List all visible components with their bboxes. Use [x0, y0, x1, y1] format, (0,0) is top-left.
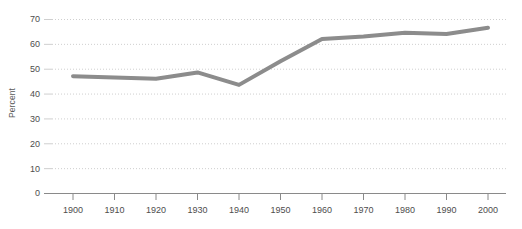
x-axis-tick-label: 1930 — [187, 205, 207, 215]
data-line-percent — [73, 28, 488, 85]
chart-container: Percent 010203040506070 1900191019201930… — [0, 0, 522, 229]
y-axis-tick-label: 50 — [30, 64, 40, 74]
x-axis-tick-label: 1910 — [104, 205, 124, 215]
x-axis-tick-label: 1990 — [436, 205, 456, 215]
y-axis-tick-label: 10 — [30, 164, 40, 174]
x-axis-ticks-group: 1900191019201930194019501960197019801990… — [63, 194, 498, 215]
x-axis-tick-label: 1960 — [312, 205, 332, 215]
x-axis-tick-label: 1920 — [146, 205, 166, 215]
line-chart-plot: 010203040506070 190019101920193019401950… — [0, 0, 522, 229]
x-axis-tick-label: 1950 — [270, 205, 290, 215]
y-axis-tick-label: 20 — [30, 139, 40, 149]
y-axis-tick-label: 60 — [30, 39, 40, 49]
y-axis-ticks-group: 010203040506070 — [30, 14, 40, 198]
y-axis-tick-label: 70 — [30, 14, 40, 24]
x-axis-tick-label: 1940 — [229, 205, 249, 215]
y-axis-tick-label: 40 — [30, 89, 40, 99]
y-axis-tick-label: 0 — [35, 188, 40, 198]
x-axis-tick-label: 1900 — [63, 205, 83, 215]
x-axis-tick-label: 1970 — [353, 205, 373, 215]
y-axis-tick-label: 30 — [30, 114, 40, 124]
data-series-group — [73, 28, 488, 85]
gridlines-group — [44, 20, 506, 194]
x-axis-tick-label: 1980 — [395, 205, 415, 215]
x-axis-tick-label: 2000 — [478, 205, 498, 215]
